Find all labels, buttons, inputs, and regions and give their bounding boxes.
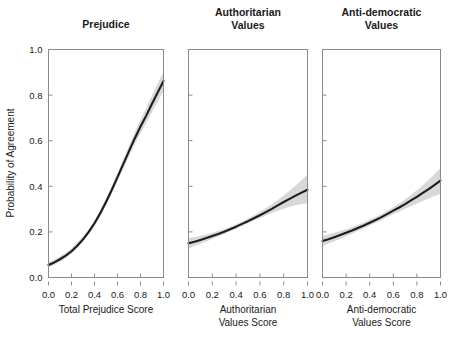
x-axis-label-authoritarian-values: Values Score: [219, 317, 278, 328]
panel-title-authoritarian-values: Authoritarian: [215, 6, 281, 18]
panel-title-anti-democratic-values: Anti-democratic: [342, 6, 422, 18]
panel-prejudice: Prejudice0.00.20.40.60.81.00.00.20.40.60…: [29, 18, 170, 315]
x-tick-label: 0.8: [277, 289, 290, 300]
x-tick-label: 0.6: [253, 289, 266, 300]
panel-title-authoritarian-values: Values: [231, 19, 264, 31]
x-tick-label: 0.4: [363, 289, 376, 300]
plot-frame-prejudice: [49, 50, 164, 278]
x-tick-label: 0.0: [42, 289, 55, 300]
y-tick-label: 0.0: [29, 272, 42, 283]
panel-authoritarian-values: AuthoritarianValues0.00.20.40.60.81.0Aut…: [182, 6, 314, 328]
x-axis-label-anti-democratic-values: Values Score: [352, 317, 411, 328]
x-tick-label: 1.0: [301, 289, 314, 300]
x-tick-label: 0.4: [88, 289, 101, 300]
x-tick-label: 0.2: [65, 289, 78, 300]
three-panel-line-chart: Prejudice0.00.20.40.60.81.00.00.20.40.60…: [0, 0, 456, 339]
y-tick-label: 0.4: [29, 181, 42, 192]
plot-frame-authoritarian-values: [189, 50, 308, 278]
y-tick-label: 0.2: [29, 226, 42, 237]
x-tick-label: 0.8: [410, 289, 423, 300]
x-axis-label-prejudice: Total Prejudice Score: [59, 304, 154, 315]
x-tick-label: 1.0: [157, 289, 170, 300]
x-tick-label: 0.2: [339, 289, 352, 300]
panel-title-prejudice: Prejudice: [82, 18, 129, 30]
y-axis-label: Probability of Agreement: [5, 108, 16, 217]
x-tick-label: 0.0: [316, 289, 329, 300]
x-axis-label-anti-democratic-values: Anti-democratic: [347, 304, 416, 315]
y-tick-label: 1.0: [29, 44, 42, 55]
y-tick-label: 0.6: [29, 135, 42, 146]
plot-frame-anti-democratic-values: [323, 50, 441, 278]
x-tick-label: 0.4: [229, 289, 242, 300]
x-tick-label: 1.0: [434, 289, 447, 300]
x-axis-label-authoritarian-values: Authoritarian: [220, 304, 277, 315]
confidence-band-prejudice: [49, 72, 164, 268]
figure-container: Prejudice0.00.20.40.60.81.00.00.20.40.60…: [0, 0, 456, 339]
panel-title-anti-democratic-values: Values: [365, 19, 398, 31]
x-tick-label: 0.2: [206, 289, 219, 300]
x-tick-label: 0.6: [111, 289, 124, 300]
x-tick-label: 0.6: [387, 289, 400, 300]
y-tick-label: 0.8: [29, 90, 42, 101]
panel-anti-democratic-values: Anti-democraticValues0.00.20.40.60.81.0A…: [316, 6, 447, 328]
x-tick-label: 0.0: [182, 289, 195, 300]
x-tick-label: 0.8: [134, 289, 147, 300]
